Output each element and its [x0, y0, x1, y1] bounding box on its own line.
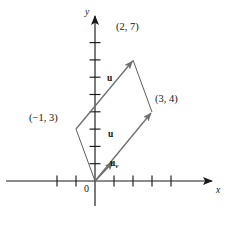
point-label-3-4: (3, 4) — [155, 94, 178, 105]
vector-label-u-sub-v-subscript: v — [115, 162, 118, 170]
vector-u-lower-arrow — [95, 113, 151, 181]
point-label-2-7: (2, 7) — [116, 22, 139, 33]
vector-label-u-sub-v: uv — [110, 159, 118, 169]
point-label-neg1-3: (−1, 3) — [29, 113, 58, 124]
vector-label-u-lower: u — [108, 130, 113, 140]
vector-label-u-upper: u — [107, 74, 112, 84]
x-axis-label: x — [216, 186, 220, 196]
vector-parallelogram-figure: (2, 7) (3, 4) (−1, 3) u u uv 0 x y — [0, 0, 232, 229]
vector-u-upper-arrow — [76, 61, 133, 129]
x-axis — [6, 176, 212, 187]
y-axis-label: y — [85, 8, 89, 18]
origin-label: 0 — [84, 184, 89, 194]
